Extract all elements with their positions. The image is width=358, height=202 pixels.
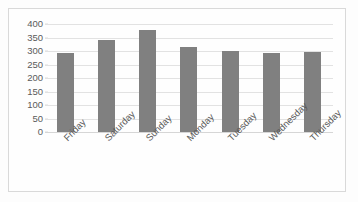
x-axis-slot: Sunday <box>127 134 168 190</box>
x-axis-slot: Thursday <box>292 134 333 190</box>
bar[interactable] <box>263 53 280 132</box>
y-axis-tick-label: 250 <box>27 60 43 70</box>
y-axis-tick-label: 400 <box>27 19 43 29</box>
x-axis: FridaySaturdaySundayMondayTuesdayWednesd… <box>45 134 333 190</box>
bar[interactable] <box>57 53 74 132</box>
y-axis-tick-label: 50 <box>32 114 43 124</box>
y-axis-tick-label: 350 <box>27 33 43 43</box>
x-axis-slot: Tuesday <box>210 134 251 190</box>
y-axis-tick-label: 200 <box>27 73 43 83</box>
y-axis-tick-label: 150 <box>27 87 43 97</box>
bar[interactable] <box>180 47 197 132</box>
bar-slot <box>45 24 86 132</box>
bar[interactable] <box>139 30 156 132</box>
chart-frame: 400350300250200150100500 FridaySaturdayS… <box>8 8 346 192</box>
x-axis-slot: Saturday <box>86 134 127 190</box>
x-axis-slot: Wednesday <box>251 134 292 190</box>
x-axis-slot: Monday <box>168 134 209 190</box>
x-axis-slot: Friday <box>45 134 86 190</box>
y-axis-tick-label: 0 <box>38 127 43 137</box>
y-axis-tick-label: 100 <box>27 100 43 110</box>
y-axis: 400350300250200150100500 <box>13 24 43 132</box>
bar[interactable] <box>222 51 239 132</box>
bar[interactable] <box>304 52 321 132</box>
bar[interactable] <box>98 40 115 132</box>
y-axis-tick-label: 300 <box>27 46 43 56</box>
